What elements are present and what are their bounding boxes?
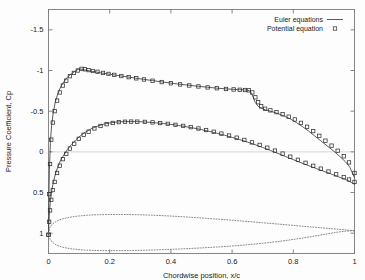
x-tick-label: 0.4	[166, 257, 176, 266]
y-tick-label: -1.5	[31, 25, 44, 34]
x-tick-label: 1	[352, 257, 356, 266]
y-axis-tick-labels: -1.5-1-0.500.51	[31, 25, 44, 237]
series-line	[49, 122, 355, 235]
x-axis-tick-labels: 00.20.40.60.81	[46, 257, 356, 266]
y-tick-label: 1	[39, 229, 43, 238]
x-tick-label: 0.6	[227, 257, 237, 266]
figure-container: 00.20.40.60.81 -1.5-1-0.500.51 Chordwise…	[0, 0, 365, 280]
y-tick-label: -1	[37, 66, 44, 75]
airfoil-profile-path	[49, 214, 355, 233]
x-tick-label: 0	[46, 257, 50, 266]
series-markers	[47, 120, 356, 237]
y-axis-title: Pressure Coefficient, Cp	[4, 91, 13, 172]
y-tick-label: -0.5	[31, 107, 44, 116]
y-tick-label: 0.5	[33, 188, 43, 197]
legend-label: Potential equation	[267, 25, 323, 33]
x-tick-label: 0.8	[288, 257, 298, 266]
data-series-group	[47, 67, 356, 250]
legend-label: Euler equations	[274, 16, 323, 24]
pressure-coefficient-chart: 00.20.40.60.81 -1.5-1-0.500.51 Chordwise…	[0, 0, 365, 280]
y-tick-label: 0	[39, 147, 43, 156]
chart-legend: Euler equationsPotential equation	[267, 16, 343, 33]
airfoil-profile-path	[49, 231, 355, 251]
legend-marker-swatch	[333, 27, 336, 30]
x-tick-label: 0.2	[104, 257, 114, 266]
x-axis-title: Chordwise position, x/c	[163, 271, 240, 280]
